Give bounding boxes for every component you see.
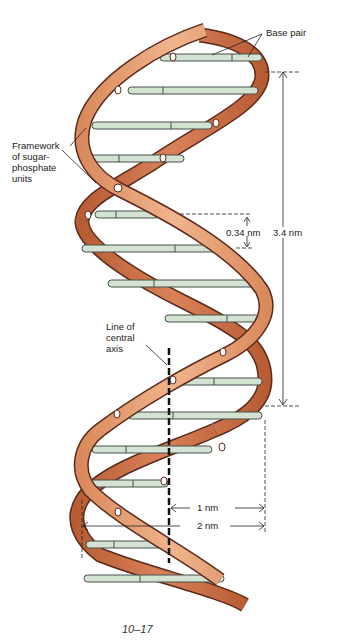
diameter-measurement-label: 2 nm [197, 520, 218, 531]
central-axis-label: Line of central axis [106, 321, 135, 354]
base-pair-rung [82, 245, 218, 252]
dna-helix-diagram [0, 0, 340, 640]
base-pair-rung [128, 87, 258, 94]
framework-label-line: of sugar- [12, 151, 60, 162]
base-pair-label: Base pair [266, 27, 306, 38]
base-pair-rung [108, 280, 255, 287]
figure-caption: 10–17 [122, 623, 153, 635]
rise-measurement-label: 0.34 nm [226, 227, 260, 238]
base-pair-rung [128, 412, 262, 419]
pitch-measurement-label: 3.4 nm [272, 227, 303, 238]
framework-label-line: units [12, 173, 60, 184]
axis-label-line: central [106, 332, 135, 343]
base-pair-rung [86, 480, 168, 487]
base-pair-rung [92, 446, 212, 453]
base-pair-rung [84, 155, 184, 162]
framework-label-line: Framework [12, 140, 60, 151]
framework-label: Framework of sugar- phosphate units [12, 140, 60, 184]
framework-label-line: phosphate [12, 162, 60, 173]
radius-measurement-label: 1 nm [197, 502, 218, 513]
base-pair-rung [92, 122, 212, 129]
axis-label-line: Line of [106, 321, 135, 332]
base-pair-rung [165, 315, 260, 322]
axis-label-line: axis [106, 343, 135, 354]
